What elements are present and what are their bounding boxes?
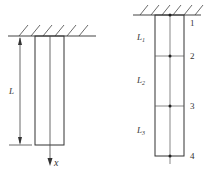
bar-diagram: x L 1 2 3 (0, 0, 207, 174)
node-3-label: 3 (190, 101, 195, 111)
node-1-label: 1 (190, 18, 195, 28)
axis-arrow-icon (48, 158, 53, 166)
axis-label: x (53, 157, 59, 168)
dimension-arrow-up-icon (18, 37, 22, 45)
fixed-support-hatch (8, 25, 96, 36)
node-2-label: 2 (190, 51, 195, 61)
element-dividers (155, 56, 184, 106)
left-figure: x L (8, 25, 96, 168)
bar-right (155, 15, 184, 156)
length-label: L (8, 86, 14, 96)
segment-1-label: L1 (136, 32, 145, 43)
fixed-support-hatch-right (133, 5, 203, 15)
segment-3-label: L3 (136, 125, 145, 136)
bar (35, 36, 64, 145)
segment-2-label: L2 (136, 75, 145, 86)
dimension-arrow-down-icon (18, 137, 22, 145)
node-4-label: 4 (190, 151, 195, 161)
right-figure: 1 2 3 4 L1 L2 L3 (133, 5, 203, 164)
